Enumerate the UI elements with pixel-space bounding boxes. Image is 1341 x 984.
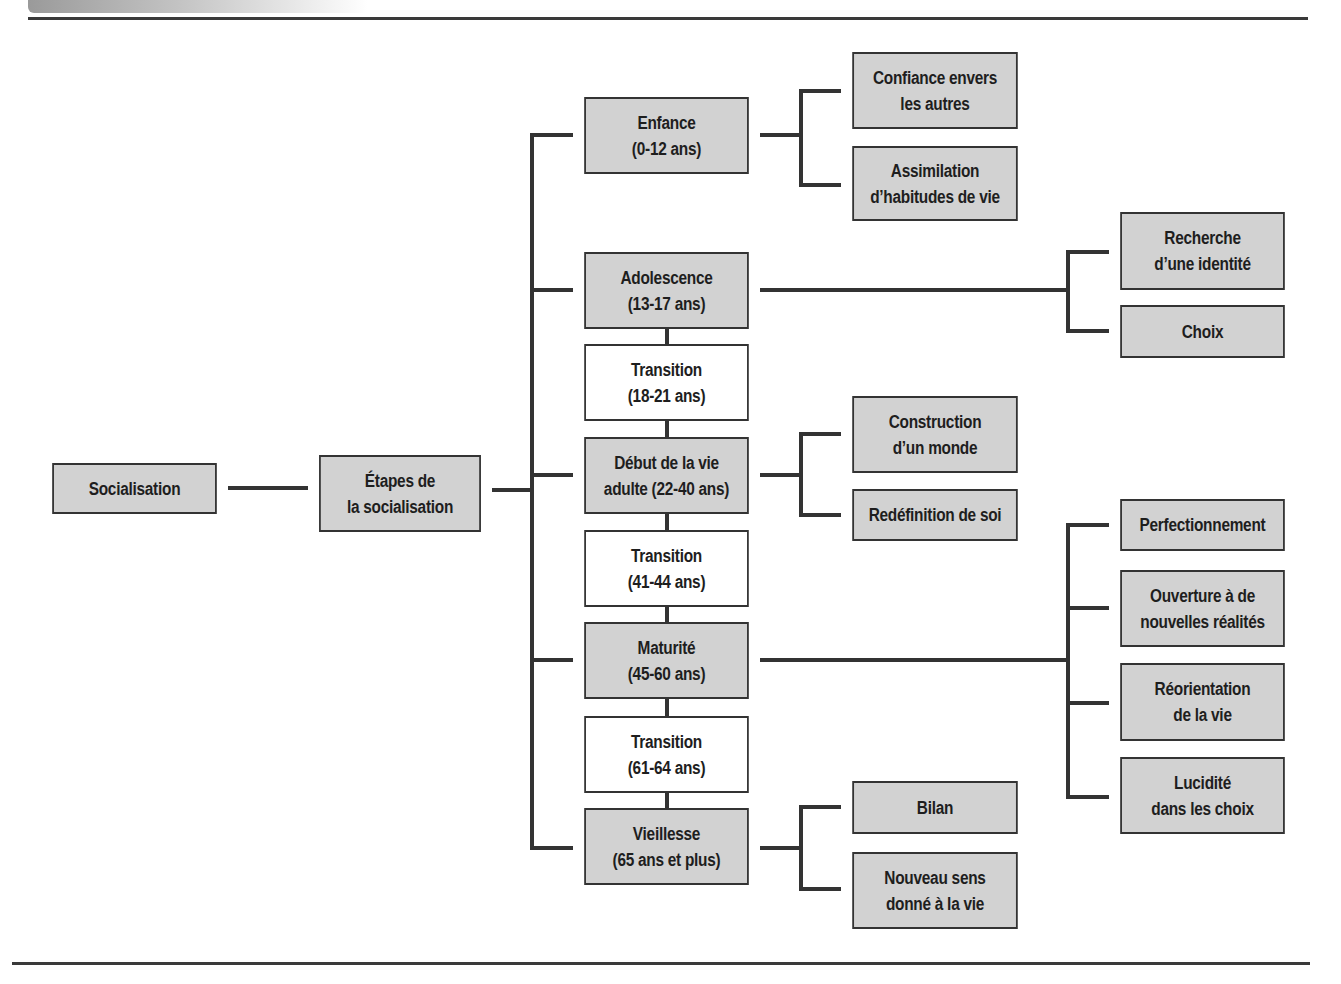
- node-label: Choix: [1182, 319, 1223, 345]
- node-label: Transition (41-44 ans): [628, 543, 706, 595]
- node-redefinition: Redéfinition de soi: [852, 489, 1017, 541]
- node-socialisation: Socialisation: [52, 463, 217, 514]
- node-transition-41-44: Transition (41-44 ans): [584, 530, 749, 607]
- node-assimilation: Assimilation d’habitudes de vie: [852, 146, 1017, 221]
- node-label: Bilan: [917, 795, 953, 821]
- node-label: Redéfinition de soi: [869, 502, 1002, 528]
- node-transition-18-21: Transition (18-21 ans): [584, 344, 749, 421]
- node-label: Confiance envers les autres: [873, 65, 997, 117]
- node-lucidite: Lucidité dans les choix: [1120, 757, 1285, 834]
- node-label: Transition (61-64 ans): [628, 729, 706, 781]
- node-label: Début de la vie adulte (22-40 ans): [604, 450, 729, 502]
- bottom-rule: [12, 962, 1310, 965]
- node-ouverture: Ouverture à de nouvelles réalités: [1120, 570, 1285, 647]
- node-label: Perfectionnement: [1140, 512, 1266, 538]
- node-debut-vie-adulte: Début de la vie adulte (22-40 ans): [584, 437, 749, 514]
- node-label: Ouverture à de nouvelles réalités: [1140, 583, 1265, 635]
- node-label: Recherche d’une identité: [1154, 225, 1250, 277]
- node-label: Assimilation d’habitudes de vie: [870, 158, 1000, 210]
- node-nouveau-sens: Nouveau sens donné à la vie: [852, 852, 1017, 929]
- node-vieillesse: Vieillesse (65 ans et plus): [584, 808, 749, 885]
- node-label: Réorientation de la vie: [1155, 676, 1251, 728]
- node-enfance: Enfance (0-12 ans): [584, 97, 749, 174]
- node-label: Lucidité dans les choix: [1151, 770, 1253, 822]
- node-label: Vieillesse (65 ans et plus): [613, 821, 721, 873]
- node-label: Adolescence (13-17 ans): [620, 265, 712, 317]
- node-label: Maturité (45-60 ans): [628, 635, 706, 687]
- node-bilan: Bilan: [852, 781, 1017, 834]
- node-construction: Construction d’un monde: [852, 396, 1017, 473]
- header-gradient-bar: [28, 0, 368, 13]
- node-transition-61-64: Transition (61-64 ans): [584, 716, 749, 793]
- node-confiance: Confiance envers les autres: [852, 52, 1017, 129]
- node-adolescence: Adolescence (13-17 ans): [584, 252, 749, 329]
- node-label: Enfance (0-12 ans): [632, 110, 701, 162]
- node-reorientation: Réorientation de la vie: [1120, 663, 1285, 741]
- node-label: Socialisation: [89, 476, 181, 502]
- node-label: Transition (18-21 ans): [628, 357, 706, 409]
- node-etapes: Étapes de la socialisation: [319, 455, 481, 532]
- node-maturite: Maturité (45-60 ans): [584, 622, 749, 699]
- node-choix: Choix: [1120, 305, 1285, 358]
- node-label: Nouveau sens donné à la vie: [884, 865, 985, 917]
- top-rule: [28, 17, 1308, 20]
- node-label: Construction d’un monde: [889, 409, 982, 461]
- node-perfectionnement: Perfectionnement: [1120, 499, 1285, 551]
- node-label: Étapes de la socialisation: [347, 468, 453, 520]
- node-recherche-identite: Recherche d’une identité: [1120, 212, 1285, 290]
